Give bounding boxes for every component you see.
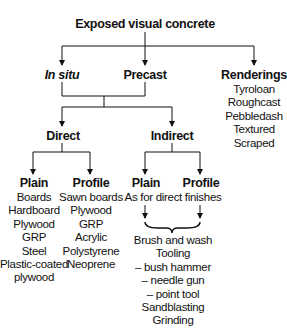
- direct-profile-item: GRP: [59, 218, 123, 231]
- node-indirect-profile: Profile: [183, 177, 220, 191]
- node-in-situ: In situ: [45, 69, 80, 83]
- direct-profile-item: Plywood: [59, 204, 123, 217]
- node-indirect: Indirect: [151, 130, 194, 144]
- finish-item: – needle gun: [134, 274, 212, 287]
- direct-profile-item: Sawn boards: [59, 191, 123, 204]
- direct-plain-item: GRP: [0, 231, 68, 244]
- direct-plain-item: Plastic-coated: [0, 258, 68, 271]
- finish-item: Tooling: [134, 247, 212, 260]
- renderings-item: Pebbledash: [225, 110, 283, 123]
- diagram-title: Exposed visual concrete: [75, 18, 215, 32]
- node-direct-plain: Plain: [20, 177, 48, 191]
- direct-plain-item: Steel: [0, 245, 68, 258]
- direct-profile-item: Neoprene: [59, 258, 123, 271]
- node-indirect-plain: Plain: [132, 177, 160, 191]
- node-precast: Precast: [123, 69, 166, 83]
- renderings-item: Scraped: [225, 137, 283, 150]
- direct-profile-item: Acrylic: [59, 231, 123, 244]
- node-renderings: Renderings: [221, 69, 287, 83]
- renderings-item: Roughcast: [225, 96, 283, 109]
- finish-item: Brush and wash: [134, 234, 212, 247]
- finish-item: – bush hammer: [134, 261, 212, 274]
- finish-item: – point tool: [134, 288, 212, 301]
- indirect-note: As for direct finishes: [125, 191, 222, 205]
- node-direct: Direct: [46, 130, 80, 144]
- direct-plain-list: Boards Hardboard Plywood GRP Steel Plast…: [0, 191, 68, 285]
- finish-item: Sandblasting: [134, 301, 212, 314]
- node-direct-profile: Profile: [73, 177, 110, 191]
- direct-plain-item: Hardboard: [0, 204, 68, 217]
- direct-plain-item: Plywood: [0, 218, 68, 231]
- renderings-item: Tyroloan: [225, 83, 283, 96]
- renderings-item: Textured: [225, 123, 283, 136]
- renderings-list: Tyroloan Roughcast Pebbledash Textured S…: [225, 83, 283, 150]
- direct-plain-item: plywood: [0, 271, 68, 284]
- direct-plain-item: Boards: [0, 191, 68, 204]
- direct-profile-item: Polystyrene: [59, 245, 123, 258]
- direct-profile-list: Sawn boards Plywood GRP Acrylic Polystyr…: [59, 191, 123, 271]
- indirect-finishes-list: Brush and wash Tooling – bush hammer – n…: [134, 234, 212, 328]
- finish-item: Grinding: [134, 314, 212, 327]
